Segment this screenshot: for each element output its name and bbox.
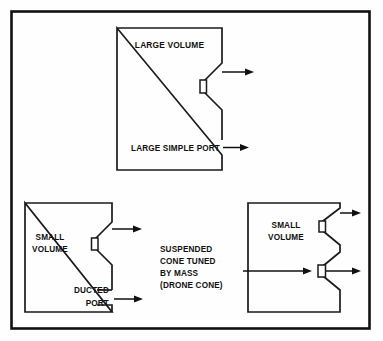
- figure-root: LARGE VOLUME LARGE SIMPLE PORT SMALL: [0, 0, 383, 341]
- label-by-mass: BY MASS: [160, 269, 199, 278]
- annotation-drone-cone-text: SUSPENDED CONE TUNED BY MASS (DRONE CONE…: [160, 245, 223, 290]
- arrow-driver-drone: [340, 209, 361, 216]
- voice-coil-large: [200, 80, 207, 93]
- enclosure-diagram: LARGE VOLUME LARGE SIMPLE PORT SMALL: [0, 0, 383, 341]
- diagram-ducted-port: SMALL VOLUME DUCTED PORT: [25, 203, 143, 312]
- label-small-volume-left-line2: VOLUME: [32, 245, 68, 254]
- label-cone-tuned: CONE TUNED: [160, 257, 216, 266]
- label-ducted: DUCTED: [74, 286, 109, 295]
- label-drone-cone: (DRONE CONE): [160, 281, 223, 290]
- arrow-driver-large: [222, 68, 254, 75]
- arrow-port-ducted: [114, 295, 143, 302]
- voice-coil-drone-driver: [319, 221, 326, 232]
- enclosure-outline-drone: [248, 203, 340, 312]
- label-small-volume-right-line1: SMALL: [272, 221, 301, 230]
- label-suspended: SUSPENDED: [160, 245, 212, 254]
- label-port: PORT: [86, 299, 109, 308]
- arrow-driver-ducted: [112, 225, 142, 232]
- diagram-drone-cone: SMALL VOLUME SUSPENDED CONE TUNED BY MAS…: [160, 203, 361, 312]
- arrow-annotation-drone: [243, 267, 312, 274]
- voice-coil-ducted: [92, 238, 99, 250]
- arrow-drone-output: [326, 267, 361, 274]
- drone-cone-mass-block: [318, 265, 326, 277]
- label-small-volume-right-line2: VOLUME: [268, 233, 304, 242]
- label-large-volume: LARGE VOLUME: [135, 40, 205, 50]
- arrow-port-large: [223, 144, 249, 151]
- enclosure-outline-ducted: [25, 203, 112, 312]
- label-small-volume-left-line1: SMALL: [36, 233, 65, 242]
- label-large-simple-port: LARGE SIMPLE PORT: [131, 144, 220, 153]
- diagram-large-simple-port: LARGE VOLUME LARGE SIMPLE PORT: [117, 28, 254, 170]
